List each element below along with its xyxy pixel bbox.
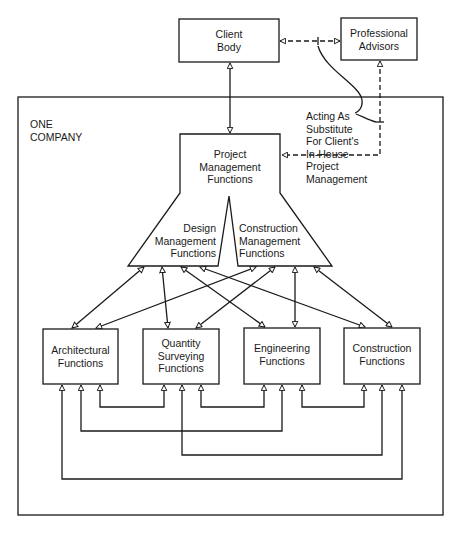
project-management-label: Project Management Functions <box>180 148 280 186</box>
one-company-label: ONE COMPANY <box>30 118 82 143</box>
diagram-canvas <box>0 0 461 533</box>
annotation-label: Acting As Substitute For Client's In-Hou… <box>306 110 367 185</box>
annotation-curve <box>318 46 362 113</box>
professional-advisors-label: Professional Advisors <box>341 27 417 52</box>
client-body-label: Client Body <box>179 28 279 53</box>
engineering-label: Engineering Functions <box>244 342 320 367</box>
construction-label: Construction Functions <box>344 342 420 367</box>
architectural-label: Architectural Functions <box>43 344 118 369</box>
design-management-label: Design Management Functions <box>140 222 216 260</box>
quantity-surveying-label: Quantity Surveying Functions <box>143 337 219 375</box>
construction-management-label: Construction Management Functions <box>239 222 329 260</box>
